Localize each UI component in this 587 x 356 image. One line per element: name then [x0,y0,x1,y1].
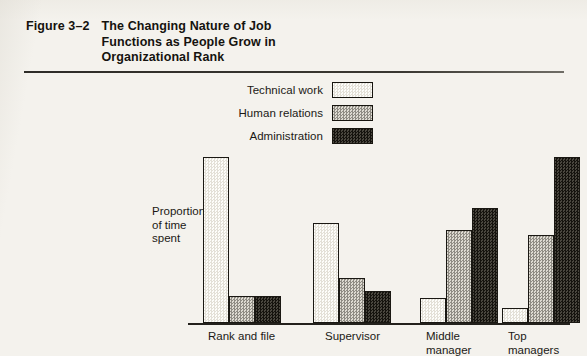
figure-number: Figure 3–2 [26,19,90,33]
bar-technical-work-group-1 [203,157,229,323]
legend-item-administration: Administration [198,124,373,147]
x-axis-category-label-3-line-1: Middle [426,330,471,344]
legend-label-human-relations: Human relations [239,107,323,119]
figure-page: Figure 3–2 The Changing Nature of Job Fu… [0,0,587,356]
figure-title-line-2: Functions as People Grow in [102,35,276,51]
x-axis-category-label-4: Topmanagers [508,330,559,356]
bar-administration-group-2 [365,291,391,323]
x-axis-category-label-3: Middlemanager [426,330,471,356]
x-axis-category-label-3-line-2: manager [426,344,471,356]
bar-technical-work-group-3 [420,298,446,323]
x-axis-category-label-1: Rank and file [208,330,275,344]
legend-label-administration: Administration [249,130,323,142]
legend-swatch-administration [332,128,373,144]
y-axis-label-line-3: spent [152,232,205,246]
x-axis-category-label-4-line-2: managers [508,344,559,356]
title-divider-rule [24,71,564,73]
bar-human-relations-group-1 [229,296,255,323]
y-axis-label: Proportion of time spent [152,205,205,246]
bar-human-relations-group-3 [446,230,472,323]
x-axis-category-label-4-line-1: Top [508,330,559,344]
y-axis-label-line-2: of time [152,219,205,233]
bar-technical-work-group-4 [502,308,528,323]
legend-label-technical-work: Technical work [247,84,323,96]
bar-human-relations-group-2 [339,278,365,323]
chart-legend: Technical work Human relations Administr… [198,78,373,147]
figure-title-line-1: The Changing Nature of Job [102,19,276,35]
legend-swatch-human-relations [332,105,373,121]
x-axis-category-label-2: Supervisor [325,330,380,344]
figure-title-line-3: Organizational Rank [102,50,276,66]
bar-administration-group-3 [472,208,498,323]
legend-item-human-relations: Human relations [198,101,373,124]
page-title: The Changing Nature of Job Functions as … [102,19,276,66]
figure-heading: Figure 3–2 The Changing Nature of Job Fu… [26,19,276,66]
x-axis-category-label-2-line-1: Supervisor [325,330,380,344]
bar-administration-group-1 [255,296,281,323]
x-axis-line [188,323,570,325]
bar-human-relations-group-4 [528,235,554,323]
legend-item-technical-work: Technical work [198,78,373,101]
bar-administration-group-4 [554,157,580,323]
legend-swatch-technical-work [332,82,373,98]
x-axis-category-label-1-line-1: Rank and file [208,330,275,344]
bar-technical-work-group-2 [313,223,339,323]
y-axis-label-line-1: Proportion [152,205,205,219]
